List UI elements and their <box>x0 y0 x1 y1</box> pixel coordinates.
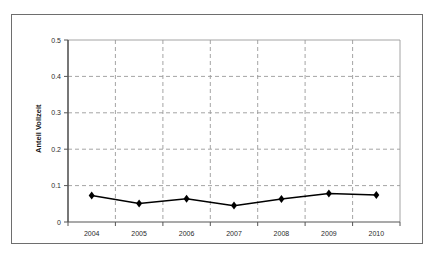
ytick-label-0.3: 0.3 <box>51 109 61 116</box>
ytick-label-0.2: 0.2 <box>51 146 61 153</box>
xtick-label-2004: 2004 <box>84 230 100 237</box>
xtick-label-2008: 2008 <box>274 230 290 237</box>
xtick-label-2007: 2007 <box>226 230 242 237</box>
ytick-label-0.4: 0.4 <box>51 73 61 80</box>
xtick-label-2009: 2009 <box>321 230 337 237</box>
xtick-label-2006: 2006 <box>179 230 195 237</box>
xtick-label-2010: 2010 <box>369 230 385 237</box>
x-axis-ticks <box>68 222 400 226</box>
y-axis-title: Anteil Vollzeit <box>34 104 43 153</box>
ytick-label-0.5: 0.5 <box>51 37 61 44</box>
ytick-label-0.1: 0.1 <box>51 182 61 189</box>
ytick-label-0: 0 <box>57 219 61 226</box>
line-chart: 0.5 0.4 0.3 0.2 0.1 0 Anteil Vollzeit 20… <box>0 0 435 261</box>
xtick-label-2005: 2005 <box>131 230 147 237</box>
chart-figure: 0.5 0.4 0.3 0.2 0.1 0 Anteil Vollzeit 20… <box>0 0 435 261</box>
